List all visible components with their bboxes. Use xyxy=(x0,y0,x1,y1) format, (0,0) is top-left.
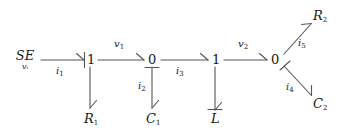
element-c1: C1 xyxy=(146,112,160,127)
bond-b3-halfarrow xyxy=(201,54,209,61)
bond-label-i5: i5 xyxy=(298,38,306,50)
bond-label-i2: i2 xyxy=(138,81,146,93)
bond-label-v1: v1 xyxy=(114,39,124,51)
bond-label-i4: i4 xyxy=(286,82,294,94)
element-c2: C2 xyxy=(313,97,327,112)
junction-zero-first: 0 xyxy=(148,53,156,66)
bond-b2-halfarrow xyxy=(137,54,145,61)
bond-label-i3: i3 xyxy=(176,66,184,78)
element-l: L xyxy=(211,112,220,127)
bond-b1-halfarrow xyxy=(77,54,85,61)
bond-b6-halfarrow xyxy=(152,101,159,109)
junction-zero-second: 0 xyxy=(271,53,279,66)
bond-b9-causal-stroke xyxy=(280,61,290,70)
bond-b4-halfarrow xyxy=(260,54,268,61)
bond-label-v2: v2 xyxy=(238,39,248,51)
element-r2: R2 xyxy=(313,9,327,24)
bond-graph-canvas xyxy=(0,0,345,139)
bond-graph-figure: SE vᵢ 1 0 1 0 i1 v1 i3 v2 i2 i5 i4 R1 C1… xyxy=(0,0,345,139)
bond-b7-halfarrow xyxy=(215,103,222,111)
bond-b5-halfarrow xyxy=(90,101,97,109)
junction-one-second: 1 xyxy=(212,53,220,66)
element-r1: R1 xyxy=(84,112,98,127)
source-effort-subscript: vᵢ xyxy=(9,63,41,71)
junction-one-first: 1 xyxy=(87,53,95,66)
source-effort-element: SE vᵢ xyxy=(9,49,41,71)
bond-label-i1: i1 xyxy=(56,66,64,78)
source-effort-symbol: SE xyxy=(9,49,41,62)
